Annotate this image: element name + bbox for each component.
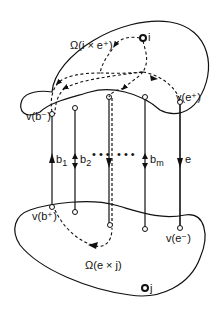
lower-dashed-path	[55, 210, 112, 246]
diagram-canvas: Ω(i × e⁺) Ω(e × j) i j v(b⁻) v(b⁺) v(e⁺)…	[0, 0, 218, 324]
label-edge-e: e	[185, 153, 191, 165]
label-vertex-j: j	[149, 282, 152, 294]
label-upper-region: Ω(i × e⁺)	[70, 39, 113, 51]
label-v-b-plus: v(b⁺)	[32, 210, 57, 222]
vertex-i	[140, 35, 146, 41]
arrow-lower-path-icon	[88, 242, 98, 249]
label-v-e-minus: v(e⁻)	[166, 232, 191, 244]
vertex-b2-top	[73, 106, 78, 111]
label-ellipsis-left: • • •	[92, 148, 110, 160]
label-ellipsis-right: • • •	[117, 148, 135, 160]
label-lower-region: Ω(e × j)	[85, 259, 122, 271]
label-vertex-i: i	[148, 31, 150, 43]
label-v-e-plus: v(e⁺)	[176, 91, 201, 103]
arrow-up-b1-icon	[49, 153, 55, 163]
vertex-bm-top	[143, 95, 148, 100]
vertex-v-b-plus	[50, 205, 55, 210]
arrow-to-ve-plus-icon	[150, 75, 158, 81]
label-edge-bm: bm	[150, 153, 164, 168]
vertex-v-e-minus	[178, 226, 183, 231]
vertex-mid-bottom	[108, 223, 113, 228]
vertex-b2-bottom	[73, 210, 78, 215]
label-edge-b2: b2	[80, 153, 91, 168]
label-edge-b1: b1	[56, 153, 67, 168]
vertex-bm-bottom	[143, 227, 148, 232]
label-v-b-minus: v(b⁻)	[26, 110, 51, 122]
vertex-j	[142, 285, 148, 291]
arrow-down-e-icon	[177, 158, 183, 168]
